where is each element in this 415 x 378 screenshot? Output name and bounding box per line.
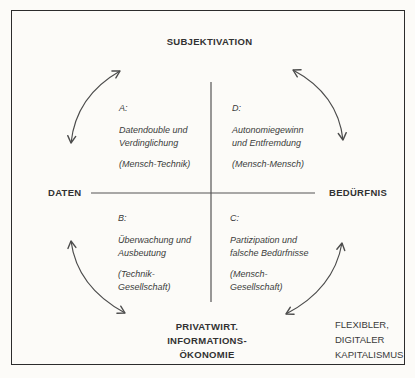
quadrant-b-relation-line: (Technik- xyxy=(118,268,223,281)
quadrant-b: B: Überwachung und Ausbeutung (Technik- … xyxy=(118,212,223,294)
corner-note-line: FLEXIBLER, xyxy=(335,317,403,332)
pole-bottom-line: PRIVATWIRT. xyxy=(147,320,267,334)
pole-bottom-line: ÖKONOMIE xyxy=(147,348,267,362)
pole-informationsoekonomie: PRIVATWIRT. INFORMATIONS- ÖKONOMIE xyxy=(147,320,267,362)
quadrant-c-relation-line: Gesellschaft) xyxy=(230,281,335,294)
corner-note-kapitalismus: FLEXIBLER, DIGITALER KAPITALISMUS xyxy=(335,317,403,362)
figure-canvas: SUBJEKTIVATION DATEN BEDÜRFNIS PRIVATWIR… xyxy=(0,0,415,378)
pole-beduerfnis: BEDÜRFNIS xyxy=(329,187,387,198)
quadrant-d-relation-line: (Mensch-Mensch) xyxy=(232,158,337,171)
corner-note-line: KAPITALISMUS xyxy=(335,347,403,362)
quadrant-b-relation-line: Gesellschaft) xyxy=(118,281,223,294)
quadrant-d-title-line: Autonomiegewinn xyxy=(232,124,337,137)
quadrant-d-label: D: xyxy=(232,102,337,115)
quadrant-a: A: Datendouble und Verdinglichung (Mensc… xyxy=(119,102,224,171)
quadrant-c-label: C: xyxy=(230,212,335,225)
quadrant-a-title-line: Datendouble und xyxy=(119,124,224,137)
pole-daten: DATEN xyxy=(48,187,82,198)
quadrant-c-relation-line: (Mensch- xyxy=(230,268,335,281)
corner-note-line: DIGITALER xyxy=(335,332,403,347)
quadrant-a-relation-line: (Mensch-Technik) xyxy=(119,158,224,171)
quadrant-a-title-line: Verdinglichung xyxy=(119,137,224,150)
arrow-daten-informationsoekonomie-icon xyxy=(71,241,125,313)
quadrant-c-title-line: Partizipation und xyxy=(230,234,335,247)
quadrant-d-title-line: und Entfremdung xyxy=(232,137,337,150)
quadrant-b-title-line: Ausbeutung xyxy=(118,247,223,260)
quadrant-d: D: Autonomiegewinn und Entfremdung (Mens… xyxy=(232,102,337,171)
quadrant-c-title-line: falsche Bedürfnisse xyxy=(230,247,335,260)
quadrant-b-title-line: Überwachung und xyxy=(118,234,223,247)
pole-subjektivation: SUBJEKTIVATION xyxy=(2,36,415,47)
pole-bottom-line: INFORMATIONS- xyxy=(147,334,267,348)
arrow-daten-subjektivation-icon xyxy=(71,71,120,143)
quadrant-c: C: Partizipation und falsche Bedürfnisse… xyxy=(230,212,335,294)
quadrant-a-label: A: xyxy=(119,102,224,115)
quadrant-b-label: B: xyxy=(118,212,223,225)
